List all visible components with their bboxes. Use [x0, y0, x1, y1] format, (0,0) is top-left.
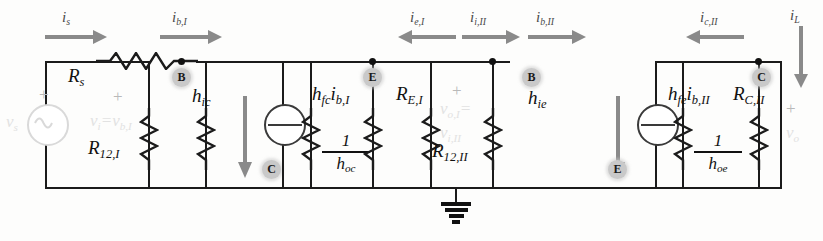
arrow-i-e1 [398, 30, 456, 44]
label-hfe-ib2: hfeib,II [668, 84, 710, 107]
arrow-i-b1 [160, 30, 222, 44]
label-re1: RE,I [396, 84, 423, 107]
resistor-r12-1 [139, 108, 159, 170]
resistor-hoe [673, 108, 693, 170]
label-v-in: vi=vb,I [90, 112, 132, 132]
resistor-hoc [301, 108, 321, 170]
label-i-b1: ib,I [172, 10, 187, 27]
node-dot-b-stage2 [489, 58, 496, 65]
arrow-i-i2 [462, 30, 520, 44]
label-i-i2: ii,II [470, 10, 486, 27]
node-badge-c-stage2: C [752, 68, 771, 87]
label-r12-2: R12,II [432, 141, 468, 164]
arrow-hfc-direction [238, 96, 252, 178]
wire-top-left-b [196, 61, 282, 63]
polarity-plus-vmid: + [452, 82, 462, 99]
polarity-plus-vout: + [786, 100, 796, 117]
arrow-i-c2 [686, 30, 744, 44]
resistor-hic [196, 108, 216, 170]
label-i-c2: ic,II [700, 10, 718, 27]
arrow-i-L [794, 26, 808, 88]
label-hie: hie [528, 88, 547, 111]
polarity-plus-vs: + [39, 86, 49, 103]
voltage-source-vs [27, 104, 69, 146]
polarity-plus-vin: + [113, 88, 123, 105]
node-badge-c-stage1: C [262, 160, 281, 179]
node-dot-b-stage1 [178, 58, 185, 65]
arrow-i-b2 [528, 30, 586, 44]
label-i-s: is [62, 10, 70, 27]
label-v-out: vo [786, 124, 799, 144]
resistor-rc2 [749, 108, 769, 170]
node-badge-e-stage2: E [608, 160, 627, 179]
label-i-b2: ib,II [536, 10, 554, 27]
arrow-i-s [45, 30, 107, 44]
node-dot-c-stage2 [755, 58, 762, 65]
resistor-hie [483, 108, 503, 170]
label-v-mid-a: vo,I= [440, 100, 471, 120]
wire-right-edge [780, 61, 782, 189]
node-badge-e-stage1: E [363, 68, 382, 87]
resistor-re1 [363, 108, 383, 170]
label-hic: hic [192, 86, 211, 109]
circuit-diagram: Rs vs + + vi=vb,I R12,I hic B C [0, 0, 823, 241]
ground-symbol [441, 202, 471, 226]
label-hoe: 1 hoe [694, 132, 742, 175]
node-badge-b-stage2: B [522, 68, 541, 87]
label-hfc-ib1: hfcib,I [312, 84, 349, 107]
current-source-hfc [264, 104, 306, 146]
label-i-L: iL [790, 8, 800, 25]
node-badge-b-stage1: B [172, 68, 191, 87]
label-r12-1: R12,I [88, 138, 119, 161]
wire-bottom-rail [45, 187, 782, 189]
label-rc2: RC,II [733, 84, 764, 107]
node-dot-e-stage1 [369, 58, 376, 65]
label-vs: vs [6, 113, 18, 133]
label-i-e1: ie,I [410, 10, 424, 27]
label-rs: Rs [68, 66, 85, 89]
wire-ground-stem [455, 187, 457, 203]
wire-top-mid [282, 61, 510, 63]
